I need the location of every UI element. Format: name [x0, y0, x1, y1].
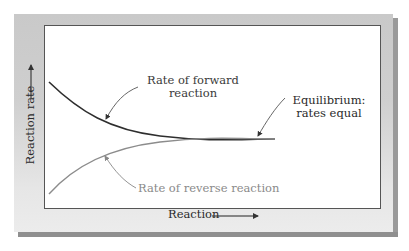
equilibrium-label-line2: rates equal [279, 107, 379, 120]
forward-pointer-arrow [106, 87, 138, 119]
equilibrium-label: Equilibrium: rates equal [279, 94, 379, 120]
reverse-rate-label: Rate of reverse reaction [138, 182, 288, 195]
reverse-pointer-arrow [105, 156, 136, 188]
forward-rate-label: Rate of forward reaction [138, 74, 248, 100]
forward-label-line2: reaction [138, 87, 248, 100]
y-axis-label: Reaction rate [23, 86, 37, 165]
x-axis-label: Reaction [168, 207, 219, 221]
